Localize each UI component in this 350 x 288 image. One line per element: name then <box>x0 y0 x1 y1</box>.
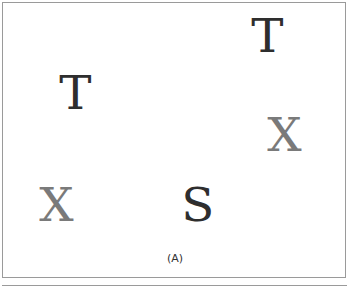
letter-x-bottom-left: X <box>39 182 73 228</box>
figure-caption: (A) <box>0 252 350 265</box>
letter-t-left: T <box>59 70 91 116</box>
divider <box>2 285 347 286</box>
letter-s-bottom: S <box>181 182 214 228</box>
letter-x-right: X <box>267 112 301 158</box>
letter-t-top-right: T <box>251 13 283 59</box>
